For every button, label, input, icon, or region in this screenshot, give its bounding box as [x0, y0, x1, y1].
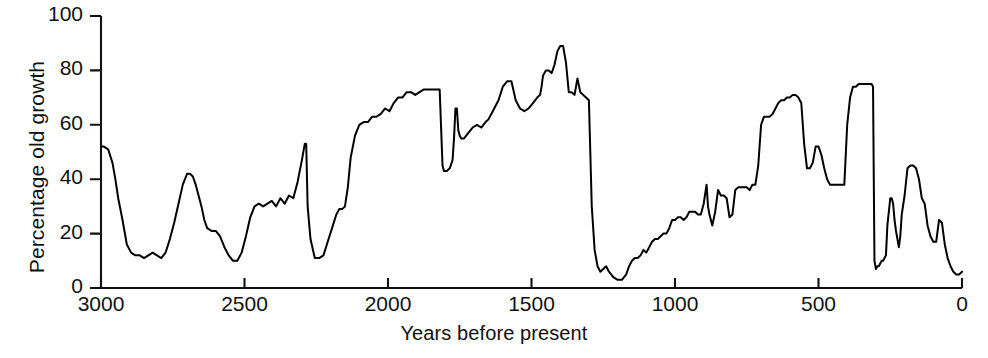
figure: Percentage old growth Years before prese…: [0, 0, 988, 358]
y-tick-label-100: 100: [23, 2, 83, 26]
x-tick-label-2500: 2500: [185, 292, 305, 316]
x-tick-label-1000: 1000: [615, 292, 735, 316]
axes: [90, 16, 962, 288]
data-line-percentage-old-growth: [101, 46, 962, 280]
y-tick-label-40: 40: [23, 165, 83, 189]
x-tick-label-3000: 3000: [41, 292, 161, 316]
axis-spines: [101, 16, 962, 288]
x-axis-label: Years before present: [0, 322, 988, 345]
y-tick-label-20: 20: [23, 220, 83, 244]
x-tick-label-1500: 1500: [472, 292, 592, 316]
x-tick-label-2000: 2000: [328, 292, 448, 316]
y-tick-label-80: 80: [23, 56, 83, 80]
x-tick-label-500: 500: [759, 292, 879, 316]
y-tick-label-60: 60: [23, 111, 83, 135]
x-tick-label-0: 0: [902, 292, 988, 316]
axis-ticks: [90, 16, 819, 288]
